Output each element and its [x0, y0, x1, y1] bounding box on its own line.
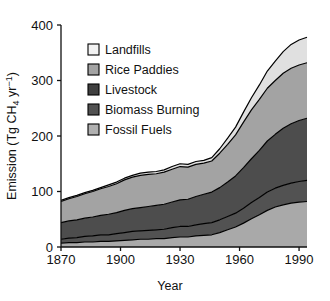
x-axis-title: Year — [157, 279, 182, 293]
methane-emission-figure: 0100200300400 18701900193019601990 Year … — [0, 0, 330, 301]
y-tick-label: 100 — [31, 184, 53, 199]
legend-swatch-livestock — [88, 84, 99, 95]
y-tick-label: 200 — [31, 129, 53, 144]
legend-label-biomass-burning: Biomass Burning — [105, 103, 200, 117]
legend-label-livestock: Livestock — [105, 83, 158, 97]
y-axis-title-sup: −1 — [4, 76, 14, 86]
legend-label-fossil-fuels: Fossil Fuels — [105, 123, 172, 137]
x-tick-label: 1870 — [47, 252, 76, 267]
legend-swatch-fossil-fuels — [88, 124, 99, 135]
legend-swatch-rice-paddies — [88, 64, 99, 75]
legend-swatch-biomass-burning — [88, 104, 99, 115]
stacked-area-chart: 0100200300400 18701900193019601990 Year … — [0, 0, 330, 301]
x-tick-label: 1900 — [106, 252, 135, 267]
legend-label-landfills: Landfills — [105, 43, 151, 57]
legend-swatch-landfills — [88, 44, 99, 55]
x-axis-tick-labels: 18701900193019601990 — [47, 252, 314, 267]
y-axis-tick-labels: 0100200300400 — [31, 18, 53, 255]
y-axis-title-prefix: Emission (Tg CH — [5, 105, 19, 199]
y-tick-label: 300 — [31, 73, 53, 88]
legend-label-rice-paddies: Rice Paddies — [105, 63, 179, 77]
y-tick-label: 400 — [31, 18, 53, 33]
y-axis-title-middle: yr — [5, 87, 19, 101]
x-tick-label: 1930 — [166, 252, 195, 267]
x-tick-label: 1960 — [225, 252, 254, 267]
y-axis-title-suffix: ) — [5, 72, 19, 76]
chart-legend: LandfillsRice PaddiesLivestockBiomass Bu… — [88, 43, 200, 137]
y-axis-title: Emission (Tg CH4 yr−1) — [4, 72, 21, 200]
svg-text:Emission (Tg CH4 yr−1): Emission (Tg CH4 yr−1) — [4, 72, 21, 200]
x-tick-label: 1990 — [285, 252, 314, 267]
